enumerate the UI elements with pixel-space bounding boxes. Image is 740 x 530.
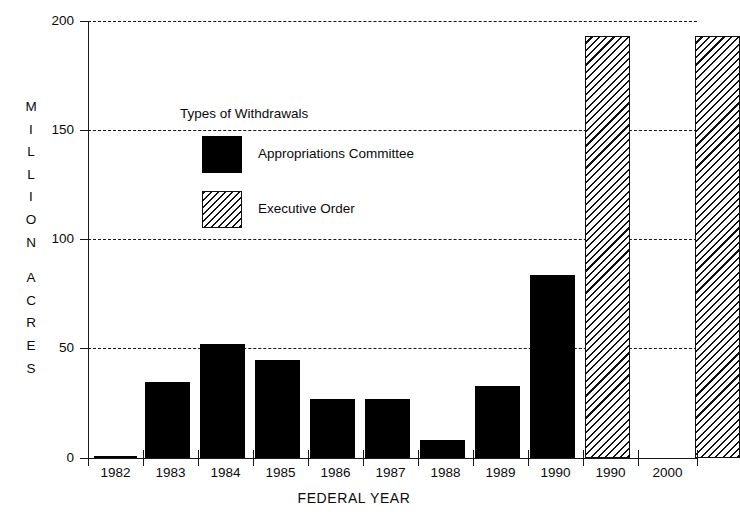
x-tickmark <box>308 450 309 466</box>
x-tickmark <box>528 450 529 466</box>
bar-1984 <box>200 344 245 458</box>
x-axis-line <box>88 458 698 459</box>
y-axis-tick-labels: 200 150 100 50 0 <box>14 0 74 530</box>
x-axis-title: FEDERAL YEAR <box>0 490 708 506</box>
x-tickmark <box>253 450 254 466</box>
y-tick-label: 200 <box>30 14 74 28</box>
x-tickmark <box>473 450 474 466</box>
x-tick-label-1986: 1986 <box>308 466 363 480</box>
bar-1988 <box>420 440 465 458</box>
y-tick-label: 50 <box>30 341 74 355</box>
legend-title: Types of Withdrawals <box>180 106 308 121</box>
x-tick-label-1990-approp: 1990 <box>528 466 583 480</box>
x-tick-label-1982: 1982 <box>88 466 143 480</box>
x-tick-label-2000-exec: 2000 <box>638 466 697 480</box>
x-tick-label-1985: 1985 <box>253 466 308 480</box>
x-tick-label-1987: 1987 <box>363 466 418 480</box>
x-tick-label-1984: 1984 <box>198 466 253 480</box>
legend-label: Executive Order <box>258 201 355 216</box>
x-tickmark <box>583 450 584 466</box>
x-tick-label-1983: 1983 <box>143 466 198 480</box>
x-tickmark <box>697 450 698 466</box>
legend-label: Appropriations Committee <box>258 146 414 161</box>
bar-1989 <box>475 386 520 458</box>
x-tick-label-1989: 1989 <box>473 466 528 480</box>
bar-1987 <box>365 399 410 458</box>
bar-group <box>88 21 697 458</box>
bar-2000-exec-order <box>695 36 740 458</box>
legend-swatch-solid-black-icon <box>202 136 242 173</box>
x-tickmark <box>198 450 199 466</box>
y-tick-label: 150 <box>30 123 74 137</box>
bar-1990-approp <box>530 275 575 458</box>
x-tickmark <box>143 450 144 466</box>
bar-1983 <box>145 382 190 458</box>
bar-1982 <box>94 456 137 458</box>
x-tickmark <box>638 450 639 466</box>
bar-1986 <box>310 399 355 458</box>
x-tickmark <box>88 450 89 466</box>
y-tick-label: 0 <box>30 451 74 465</box>
bar-1990-exec-order <box>585 36 630 458</box>
legend-swatch-diagonal-hatch-icon <box>202 191 242 228</box>
bar-1985 <box>255 360 300 458</box>
x-tickmark <box>418 450 419 466</box>
x-tickmark <box>363 450 364 466</box>
x-tick-label-1990-exec: 1990 <box>583 466 638 480</box>
x-tick-label-1988: 1988 <box>418 466 473 480</box>
y-tick-label: 100 <box>30 232 74 246</box>
